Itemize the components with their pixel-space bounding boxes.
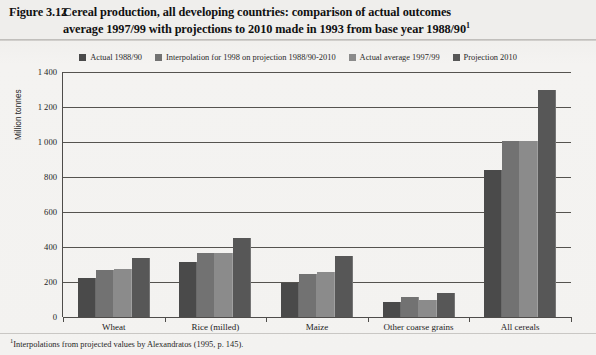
- y-tick-label: 200: [17, 277, 57, 287]
- legend-label: Actual average 1997/99: [360, 53, 440, 62]
- legend-label: Actual 1988/90: [90, 53, 142, 62]
- bar: [335, 256, 353, 317]
- legend-item: Projection 2010: [453, 53, 517, 62]
- figure-title-band: Figure 3.12 Cereal production, all devel…: [0, 0, 596, 40]
- figure-title-line-1: Cereal production, all developing countr…: [63, 5, 451, 20]
- bar: [114, 269, 132, 317]
- y-tick-label: 1 200: [17, 102, 57, 112]
- bar: [317, 272, 335, 317]
- legend-item: Interpolation for 1998 on projection 198…: [155, 53, 336, 62]
- x-tick-label: Wheat: [63, 322, 165, 332]
- figure-footnote: 1Interpolations from projected values by…: [10, 337, 243, 349]
- bar: [96, 270, 114, 317]
- bar: [78, 278, 96, 317]
- x-axis-tick: [571, 317, 572, 322]
- bar: [215, 253, 233, 317]
- figure-title-superscript: 1: [466, 21, 470, 30]
- legend-swatch-icon: [453, 54, 460, 61]
- x-axis-line: [63, 317, 571, 318]
- bar-group: [484, 72, 556, 317]
- bar: [281, 283, 299, 317]
- x-tick-label: All cereals: [469, 322, 571, 332]
- figure-container: Figure 3.12 Cereal production, all devel…: [0, 0, 596, 355]
- legend-item: Actual 1988/90: [79, 53, 142, 62]
- y-tick-label: 0: [17, 312, 57, 322]
- figure-number-label: Figure 3.12: [9, 5, 67, 20]
- bar: [132, 258, 150, 318]
- bar: [383, 302, 401, 317]
- legend-swatch-icon: [349, 54, 356, 61]
- bar: [484, 170, 502, 317]
- y-axis-title: Million tonnes: [13, 30, 23, 140]
- bar: [233, 238, 251, 317]
- x-tick-label: Rice (milled): [165, 322, 267, 332]
- legend-label: Projection 2010: [464, 53, 517, 62]
- y-tick-label: 800: [17, 172, 57, 182]
- figure-title-line-2: average 1997/99 with projections to 2010…: [63, 21, 470, 37]
- title-divider: [0, 39, 596, 41]
- bar-group: [383, 72, 455, 317]
- bar: [299, 274, 317, 317]
- bar: [520, 141, 538, 317]
- bar: [437, 293, 455, 317]
- footnote-text: Interpolations from projected values by …: [13, 340, 243, 349]
- chart-legend: Actual 1988/90Interpolation for 1998 on …: [0, 50, 596, 64]
- bar-group: [179, 72, 251, 317]
- figure-title-line-2-text: average 1997/99 with projections to 2010…: [63, 22, 466, 36]
- legend-item: Actual average 1997/99: [349, 53, 440, 62]
- bar: [197, 253, 215, 317]
- bar: [538, 90, 556, 318]
- x-tick-label: Other coarse grains: [368, 322, 470, 332]
- bar-group: [281, 72, 353, 317]
- x-axis-tick-origin: [63, 317, 64, 322]
- x-tick-label: Maize: [266, 322, 368, 332]
- legend-swatch-icon: [79, 54, 86, 61]
- plot-area: 02004006008001 0001 2001 400WheatRice (m…: [62, 72, 571, 317]
- footnote-divider: [0, 333, 596, 334]
- bar-group: [78, 72, 150, 317]
- bar: [502, 141, 520, 317]
- bar: [419, 300, 437, 317]
- legend-swatch-icon: [155, 54, 162, 61]
- y-tick-label: 600: [17, 207, 57, 217]
- bar: [401, 297, 419, 317]
- y-tick-label: 1 000: [17, 137, 57, 147]
- y-tick-label: 1 400: [17, 67, 57, 77]
- bar: [179, 262, 197, 317]
- y-tick-label: 400: [17, 242, 57, 252]
- legend-label: Interpolation for 1998 on projection 198…: [166, 53, 336, 62]
